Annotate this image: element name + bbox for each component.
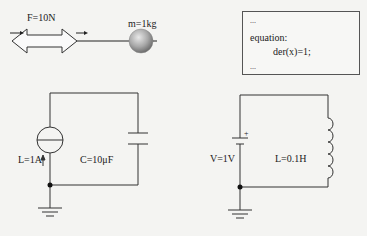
mass-ball-icon <box>129 29 153 53</box>
inductor-label: L=0.1H <box>275 154 306 164</box>
inductor-icon <box>328 118 333 178</box>
current-source-label: L=1A <box>18 155 42 165</box>
mass-label: m=1kg <box>128 19 156 29</box>
code-equation-keyword: equation: <box>250 33 287 43</box>
junction-dot <box>48 183 53 188</box>
plus-sign: + <box>244 130 249 138</box>
code-ellipsis-bottom: ... <box>250 63 256 71</box>
force-label: F=10N <box>27 13 55 23</box>
voltage-source-label: V=1V <box>210 154 235 164</box>
code-box: ... equation: der(x)=1; ... <box>242 11 360 75</box>
force-arrow-icon <box>10 29 88 53</box>
code-ellipsis-top: ... <box>250 17 256 25</box>
capacitor-label: C=10μF <box>80 155 113 165</box>
code-equation-line: der(x)=1; <box>273 47 311 57</box>
junction-dot <box>238 185 243 190</box>
